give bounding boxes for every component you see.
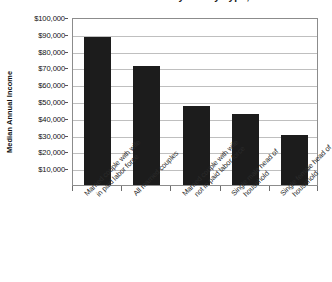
y-tick-mark bbox=[65, 119, 68, 120]
y-tick-mark bbox=[65, 52, 68, 53]
chart-title: Median Annual Income by Family Type, 200… bbox=[0, 0, 332, 2]
y-tick-mark bbox=[65, 169, 68, 170]
y-tick-label: $30,000 bbox=[38, 131, 65, 140]
y-tick-label: $20,000 bbox=[38, 148, 65, 157]
y-tick-label: $40,000 bbox=[38, 114, 65, 123]
y-tick-label: $100,000 bbox=[34, 14, 65, 23]
y-tick-mark bbox=[65, 152, 68, 153]
y-tick-mark bbox=[65, 102, 68, 103]
y-tick-mark bbox=[65, 35, 68, 36]
y-tick-label: $10,000 bbox=[38, 165, 65, 174]
y-tick-mark bbox=[65, 85, 68, 86]
y-tick-mark bbox=[65, 68, 68, 69]
y-tick-label: $90,000 bbox=[38, 30, 65, 39]
y-axis-title: Median Annual Income bbox=[2, 52, 16, 172]
y-tick-label: $70,000 bbox=[38, 64, 65, 73]
y-tick-label: $50,000 bbox=[38, 98, 65, 107]
y-tick-label: $80,000 bbox=[38, 47, 65, 56]
bar bbox=[84, 37, 111, 185]
y-tick-label: $60,000 bbox=[38, 81, 65, 90]
y-tick-mark bbox=[65, 18, 68, 19]
bar-chart: Median Annual Income by Family Type, 200… bbox=[0, 0, 332, 282]
y-axis-tick-labels: $100,000$90,000$80,000$70,000$60,000$50,… bbox=[16, 18, 68, 186]
x-axis-category-labels: Married couple with wifein paid labor fo… bbox=[0, 190, 332, 282]
y-tick-mark bbox=[65, 136, 68, 137]
